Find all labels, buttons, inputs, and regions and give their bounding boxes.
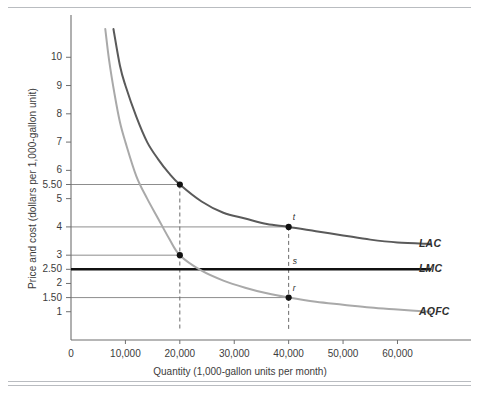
y-axis-tick-label-10: 10	[18, 51, 62, 62]
cost-curves-plot	[0, 0, 479, 397]
y-axis-tick-label-4: 4	[18, 221, 62, 232]
point-label-r: r	[293, 283, 296, 293]
y-axis-tick-label-9: 9	[18, 80, 62, 91]
curve-label-lmc: LMC	[419, 262, 442, 274]
y-axis-tick-label-3: 3	[18, 249, 62, 260]
curve-label-lac: LAC	[419, 237, 441, 249]
data-point-lac-40000[interactable]	[286, 224, 292, 230]
data-point-lac-20000[interactable]	[177, 181, 183, 187]
y-axis-tick-label-2.5: 2.50	[18, 263, 62, 274]
y-axis-tick-label-5.5: 5.50	[18, 179, 62, 190]
annotation-label-s: s	[293, 256, 297, 266]
x-axis-title: Quantity (1,000-gallon units per month)	[70, 366, 410, 377]
curve-lac	[113, 29, 430, 244]
y-axis-tick-label-8: 8	[18, 108, 62, 119]
y-axis-tick-label-1: 1	[18, 306, 62, 317]
y-axis-tick-label-7: 7	[18, 136, 62, 147]
curve-label-aqfc: AQFC	[419, 305, 450, 317]
y-axis-tick-label-2: 2	[18, 277, 62, 288]
y-axis-tick-label-5: 5	[18, 193, 62, 204]
figure-frame: Price and cost (dollars per 1,000-gallon…	[0, 0, 479, 397]
x-axis-tick-label-60000: 60,000	[357, 348, 437, 359]
point-label-t: t	[293, 212, 295, 222]
data-point-aqfc-40000[interactable]	[286, 294, 292, 300]
data-point-aqfc-20000[interactable]	[177, 252, 183, 258]
y-axis-tick-label-1.5: 1.50	[18, 292, 62, 303]
y-axis-tick-label-6: 6	[18, 164, 62, 175]
